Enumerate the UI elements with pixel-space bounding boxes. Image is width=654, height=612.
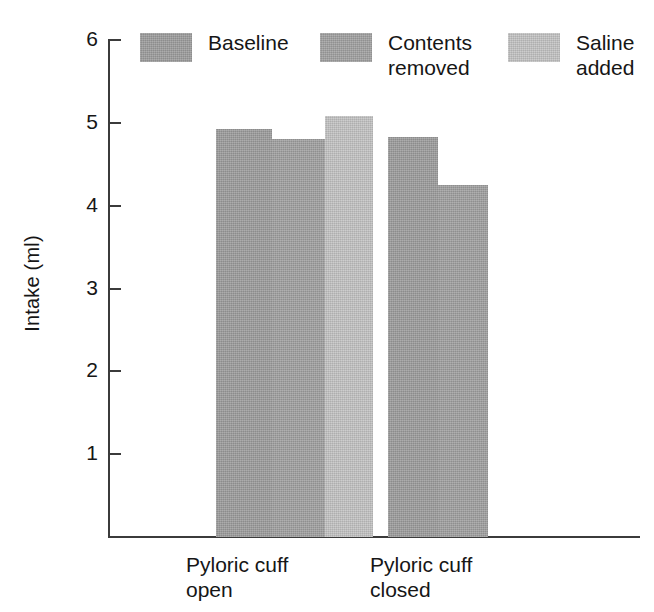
legend-item: Baseline — [140, 30, 289, 62]
legend-label: Saline added — [576, 30, 634, 80]
legend-item: Saline added — [508, 30, 634, 80]
x-axis-category-label: Pyloric cuff open — [186, 552, 366, 602]
bar — [438, 185, 488, 537]
legend-swatch — [508, 33, 560, 62]
bar — [325, 116, 373, 537]
plot-area — [110, 40, 640, 537]
y-axis-tick-label: 4 — [60, 194, 98, 215]
legend-swatch — [320, 33, 372, 62]
bar-chart-figure: Intake (ml) 654321 BaselineContents remo… — [0, 0, 654, 612]
legend-swatch — [140, 33, 192, 62]
chart-legend: BaselineContents removedSaline added — [0, 0, 654, 90]
y-axis-tick-label: 3 — [60, 277, 98, 298]
legend-label: Baseline — [208, 30, 289, 55]
y-axis-tick-label: 5 — [60, 111, 98, 132]
bar — [388, 137, 438, 537]
bar — [216, 129, 272, 537]
bar — [272, 139, 325, 537]
y-axis-tick-label: 1 — [60, 442, 98, 463]
x-axis-category-label: Pyloric cuff closed — [370, 552, 560, 602]
legend-label: Contents removed — [388, 30, 472, 80]
legend-item: Contents removed — [320, 30, 472, 80]
y-axis-tick-label: 2 — [60, 359, 98, 380]
y-axis-title: Intake (ml) — [21, 194, 44, 374]
